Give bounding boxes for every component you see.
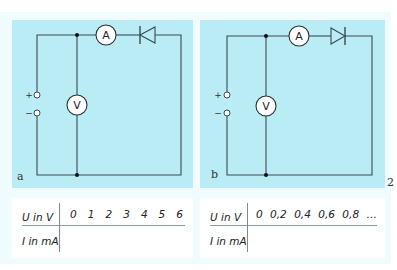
table-cell: 0,6: [318, 208, 335, 220]
svg-text:V: V: [73, 99, 81, 112]
voltmeter-icon: V: [67, 95, 87, 115]
panel-label-b: b: [211, 168, 218, 181]
voltmeter-icon: V: [256, 96, 276, 116]
table-cell: 0: [70, 208, 77, 220]
junction-dot: [264, 34, 268, 38]
table-cell: 5: [159, 208, 166, 220]
circuit-a: A V + −: [25, 25, 181, 177]
measurement-table-a: U in V 0 1 2 3 4 5 6 I in mA: [12, 198, 193, 258]
plus-sign: +: [25, 90, 33, 100]
row-header: U in V: [210, 203, 248, 230]
row-header: I in mA: [22, 230, 60, 252]
panel-label-a: a: [17, 170, 24, 183]
row-header: U in V: [22, 203, 60, 230]
voltage-values: 0 0,2 0,4 0,6 0,8 …: [248, 208, 377, 220]
table-cell: 3: [123, 208, 130, 220]
table-cell: …: [366, 208, 377, 220]
ammeter-icon: A: [289, 26, 309, 46]
page-marker: 2: [387, 176, 394, 189]
voltage-values: 0 1 2 3 4 5 6: [60, 208, 185, 220]
junction-dot: [75, 173, 79, 177]
table-cell: 0,2: [270, 208, 287, 220]
table-row-current: I in mA: [22, 230, 185, 252]
diode-reverse-icon: [140, 26, 155, 44]
svg-text:V: V: [262, 100, 270, 113]
wire-a-return: [37, 35, 181, 175]
circuit-diagrams: A V + − A V: [0, 0, 397, 200]
minus-sign: −: [214, 108, 222, 118]
table-cell: 0,4: [294, 208, 311, 220]
ammeter-icon: A: [96, 25, 116, 45]
negative-terminal-icon: [34, 110, 40, 116]
diode-forward-icon: [331, 27, 345, 45]
row-header: I in mA: [210, 230, 248, 252]
table-cell: 2: [105, 208, 112, 220]
table-cell: 0: [256, 208, 263, 220]
wire-a-outer: [37, 35, 96, 95]
table-cell: 1: [88, 208, 95, 220]
table-cell: 6: [176, 208, 183, 220]
minus-sign: −: [25, 108, 33, 118]
table-row-voltage: U in V 0 1 2 3 4 5 6: [22, 203, 185, 226]
negative-terminal-icon: [224, 110, 230, 116]
wire-b-outer: [227, 36, 289, 95]
positive-terminal-icon: [34, 92, 40, 98]
svg-text:A: A: [295, 30, 303, 43]
table-cell: 0,8: [342, 208, 359, 220]
junction-dot: [264, 173, 268, 177]
positive-terminal-icon: [224, 92, 230, 98]
wire-b-return: [227, 36, 372, 175]
circuit-b: A V + −: [214, 26, 372, 177]
svg-text:A: A: [102, 29, 110, 42]
measurement-table-b: U in V 0 0,2 0,4 0,6 0,8 … I in mA: [200, 198, 385, 258]
junction-dot: [75, 33, 79, 37]
plus-sign: +: [214, 90, 222, 100]
table-row-current: I in mA: [210, 230, 377, 252]
table-row-voltage: U in V 0 0,2 0,4 0,6 0,8 …: [210, 203, 377, 226]
table-cell: 4: [141, 208, 148, 220]
